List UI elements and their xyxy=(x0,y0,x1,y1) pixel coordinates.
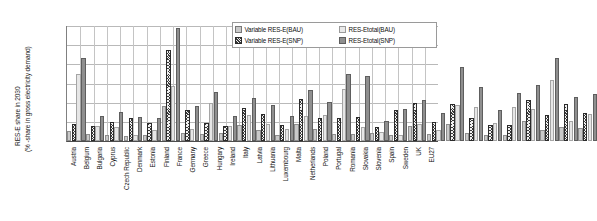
bar-tbau xyxy=(569,121,573,141)
bar-vsnp xyxy=(583,113,587,141)
bar-tsnp xyxy=(327,102,331,141)
bar-tsnp xyxy=(498,110,502,141)
x-axis-tick-label: Slovakia xyxy=(361,147,368,170)
bar-tbau xyxy=(95,126,99,141)
x-axis-tick-label: Greece xyxy=(202,147,209,167)
bar-vbau xyxy=(484,135,488,141)
bar-vbau xyxy=(370,133,374,141)
x-axis-tick-label: Luxembourg xyxy=(282,147,289,181)
x-axis-label-cell: Austria xyxy=(66,145,79,219)
bar-tbau xyxy=(190,129,194,141)
x-axis-label-cell: Malta xyxy=(292,145,305,219)
bar-tsnp xyxy=(290,116,294,141)
x-axis-tick-label: Germany xyxy=(189,147,196,172)
bar-tsnp xyxy=(517,93,521,141)
x-axis-label-cell: UK xyxy=(411,145,424,219)
bar-tbau xyxy=(285,129,289,141)
bar-group xyxy=(181,26,200,141)
x-axis-tick-label: Poland xyxy=(321,147,328,166)
bar-group xyxy=(124,26,143,141)
bar-group xyxy=(484,26,503,141)
bar-tsnp xyxy=(138,117,142,141)
bar-vsnp xyxy=(488,125,492,141)
x-axis-tick-label: Bulgaria xyxy=(96,147,103,169)
x-axis-label-cell: Bulgaria xyxy=(93,145,106,219)
bar-tsnp xyxy=(252,98,256,141)
x-axis-label-cell: Cyprus xyxy=(106,145,119,219)
bar-tbau xyxy=(379,132,383,141)
bar-tsnp xyxy=(100,116,104,141)
x-axis-label-cell: Estonia xyxy=(146,145,159,219)
bar-vbau xyxy=(408,126,412,141)
bar-tsnp xyxy=(384,121,388,141)
bar-group xyxy=(578,26,597,141)
x-axis-label-cell: Slovenia xyxy=(371,145,384,219)
x-axis-tick-label: Austria xyxy=(69,147,76,166)
bar-group xyxy=(559,26,578,141)
bar-vsnp xyxy=(91,126,95,141)
bar-tbau xyxy=(209,103,213,141)
x-axis-label-cell: Italy xyxy=(239,145,252,219)
legend-swatch-icon-vsnp xyxy=(235,37,242,44)
x-axis-label-cell: Poland xyxy=(318,145,331,219)
bar-vsnp xyxy=(185,110,189,141)
x-axis-label-cell: EU27 xyxy=(425,145,438,219)
bar-tbau xyxy=(247,115,251,141)
bar-vsnp xyxy=(72,124,76,141)
x-axis-tick-label: France xyxy=(175,147,182,166)
legend-label-tsnp: RES-Etotal(SNP) xyxy=(349,37,395,44)
bar-tbau xyxy=(436,130,440,141)
bar-tbau xyxy=(398,135,402,141)
bar-vsnp xyxy=(299,99,303,141)
x-axis-label-cell: Luxembourg xyxy=(279,145,292,219)
x-axis-label-cell: Lithuania xyxy=(265,145,278,219)
bar-vsnp xyxy=(204,123,208,141)
bar-vsnp xyxy=(110,122,114,141)
x-axis-tick-label: UK xyxy=(414,147,421,156)
x-axis-tick-label: Ireland xyxy=(229,147,236,166)
bar-vsnp xyxy=(507,125,511,141)
bar-vsnp xyxy=(526,100,530,141)
bar-tbau xyxy=(228,126,232,141)
bar-tsnp xyxy=(555,58,559,141)
bar-tbau xyxy=(76,74,80,141)
x-axis-label-cell: Spain xyxy=(385,145,398,219)
x-axis-tick-label: Sweden xyxy=(401,147,408,169)
bar-tsnp xyxy=(81,58,85,141)
bar-tsnp xyxy=(479,87,483,141)
bar-tsnp xyxy=(119,112,123,141)
x-axis-tick-label: Estonia xyxy=(149,147,156,167)
x-axis-tick-label: Slovenia xyxy=(375,147,382,171)
x-axis-label-cell: Greece xyxy=(199,145,212,219)
bar-group xyxy=(503,26,522,141)
bar-group xyxy=(200,26,219,141)
bar-tsnp xyxy=(233,116,237,141)
bar-vbau xyxy=(540,130,544,141)
bar-vsnp xyxy=(280,125,284,141)
bar-vbau xyxy=(313,129,317,141)
x-axis-labels: AustriaBelgiumBulgariaCyprusCzech Republ… xyxy=(66,145,438,219)
legend-label-vsnp: Variable RES-E(SNP) xyxy=(245,37,303,44)
legend-swatch-icon-vbau xyxy=(235,26,242,33)
bar-tsnp xyxy=(271,105,275,141)
x-axis-tick-label: Czech Republic xyxy=(122,147,129,190)
bar-vbau xyxy=(446,124,450,141)
legend-label-vbau: Variable RES-E(BAU) xyxy=(245,26,303,33)
bar-tbau xyxy=(493,123,497,141)
x-axis-tick-label: Lithuania xyxy=(268,147,275,172)
x-axis-tick-label: EU27 xyxy=(428,147,435,162)
bar-vbau xyxy=(427,134,431,141)
bar-group xyxy=(465,26,484,141)
bar-group xyxy=(540,26,559,141)
bar-tsnp xyxy=(422,100,426,141)
bar-tsnp xyxy=(441,113,445,141)
bar-vsnp xyxy=(337,118,341,141)
bar-vbau xyxy=(162,106,166,141)
x-axis-tick-label: Italy xyxy=(242,147,249,158)
bar-vbau xyxy=(143,135,147,141)
x-axis-label-cell: Czech Republic xyxy=(119,145,132,219)
bar-vbau xyxy=(237,125,241,141)
bar-tbau xyxy=(512,107,516,141)
bar-tbau xyxy=(361,127,365,141)
